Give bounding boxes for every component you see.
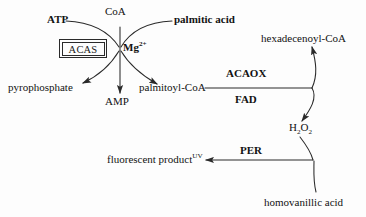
label-acaox: ACAOX [226,68,266,79]
arrow-junction-to-palmitoyl-coa [121,51,157,84]
label-homovanillic-acid: homovanillic acid [264,197,343,208]
arrow-homovanillic-acid-to-per-junction [314,161,316,192]
label-coa: CoA [105,6,126,17]
label-amp: AMP [105,96,129,107]
label-acas: ACAS [60,43,106,54]
arrow-h2o2-to-per-junction [300,137,313,160]
label-hydrogen-peroxide: H2O2 [289,122,312,133]
label-palmitoyl-coa: palmitoyl-CoA [139,82,206,93]
label-fad: FAD [235,94,257,105]
arrow-acaox-junction-to-hexadecenoyl-coa [312,47,316,88]
label-atp: ATP [47,14,68,25]
arrow-acaox-junction-to-h2o2 [302,88,314,121]
pathway-diagram: ATP CoA palmitic acid ACAS Mg2+ pyrophos… [0,0,366,217]
enzyme-box-acas: ACAS [59,39,107,58]
label-pyrophosphate: pyrophosphate [8,82,73,93]
label-magnesium: Mg2+ [123,42,147,53]
label-per: PER [240,145,262,156]
label-palmitic-acid: palmitic acid [174,14,235,25]
label-fluorescent-product: fluorescent productUV [107,154,203,165]
label-hexadecenoyl-coa: hexadecenoyl-CoA [261,33,346,44]
